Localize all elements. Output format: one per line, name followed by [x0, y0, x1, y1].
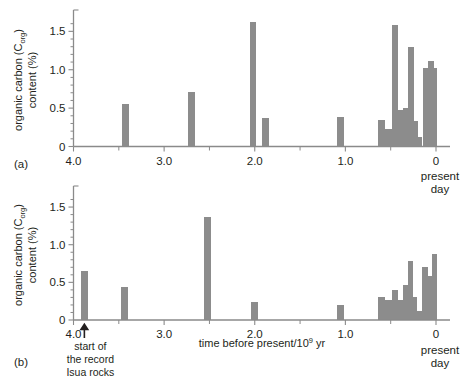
- panel-b-bar: [337, 305, 344, 320]
- isua-annotation-line1: start of: [74, 340, 106, 352]
- panel-a-y-axis-title-line1: organic carbon (Corg): [12, 29, 27, 131]
- panel-a-bar: [397, 110, 402, 146]
- panel-b-bar: [432, 254, 437, 320]
- panel-a: 00.51.01.54.03.02.01.00: [50, 10, 451, 167]
- panel-a-bar: [122, 104, 129, 147]
- panel-a-bar: [337, 117, 344, 146]
- panel-b-bar: [417, 311, 422, 320]
- panel-b-x-tick-label: 1.0: [337, 328, 353, 340]
- panel-a-bar: [408, 47, 413, 147]
- panel-a-bar: [432, 68, 437, 146]
- figure-container: 00.51.01.54.03.02.01.00 00.51.01.54.03.0…: [0, 0, 468, 382]
- panel-a-y-tick-label: 1.5: [50, 25, 66, 37]
- panel-a-bar: [188, 92, 195, 147]
- panel-a-bar: [418, 137, 423, 146]
- panel-b-y-tick-label: 0.5: [50, 276, 66, 288]
- panel-b-bar: [81, 271, 88, 320]
- isua-arrow-icon: [81, 324, 88, 338]
- panel-b-present-day-line2: day: [431, 357, 450, 369]
- chart-svg: 00.51.01.54.03.02.01.00 00.51.01.54.03.0…: [0, 0, 468, 382]
- panel-a-y-axis-title-paren: ): [12, 29, 24, 33]
- panel-b-y-tick-label: 1.0: [50, 239, 66, 251]
- panel-b-x-tick-label: 0: [433, 328, 439, 340]
- panel-a-bar: [262, 118, 269, 146]
- panel-a-y-axis-title2: content (%): [26, 52, 38, 108]
- panel-a-y-tick-label: 0.5: [50, 102, 66, 114]
- panel-b-bar: [385, 300, 392, 320]
- panel-b-bar: [413, 297, 418, 320]
- panel-b-y-axis-title: organic carbon (Corg): [12, 204, 27, 306]
- panel-b-y-axis-title-paren: ): [12, 204, 24, 208]
- panel-a-letter: (a): [14, 158, 28, 170]
- panel-b-bar: [422, 267, 427, 320]
- panel-a-present-day-line1: present: [421, 170, 460, 182]
- panel-a-bar: [423, 68, 428, 146]
- panel-a-y-axis-title-sub: org: [18, 33, 27, 44]
- panel-a-bar: [250, 22, 257, 146]
- panel-b-bar: [121, 287, 128, 320]
- isua-annotation-line3: Isua rocks: [66, 366, 114, 378]
- panel-b-y-axis-title-line2: content (%): [26, 227, 38, 283]
- panel-b-y-axis-title2: content (%): [26, 227, 38, 283]
- panel-a-present-day-line2: day: [431, 183, 450, 195]
- panel-b-bar: [397, 300, 402, 320]
- panel-b-y-tick-label: 1.5: [50, 201, 66, 213]
- panel-b-present-day-line1: present: [421, 344, 460, 356]
- panel-b-bar: [378, 297, 385, 320]
- panel-a-y-axis-title-line2: content (%): [26, 52, 38, 108]
- panel-a-y-tick-label: 1.0: [50, 64, 66, 76]
- panel-a-x-tick-label: 1.0: [337, 155, 353, 167]
- panel-a-x-tick-label: 4.0: [66, 155, 82, 167]
- panel-b-y-tick-label: 0: [59, 314, 65, 326]
- panel-a-y-axis-title: organic carbon (Corg): [12, 29, 27, 131]
- panel-b-y-axis-title-sub: org: [18, 208, 27, 219]
- panel-b-bar: [403, 285, 408, 320]
- panel-a-bar: [385, 129, 392, 147]
- panel-b-bar: [392, 290, 398, 320]
- panel-a-x-tick-label: 0: [433, 155, 439, 167]
- x-axis-title-post: yr: [313, 337, 326, 349]
- panel-b-x-tick-label: 4.0: [66, 328, 82, 340]
- panel-a-bar: [392, 25, 398, 146]
- panel-b-letter: (b): [14, 356, 28, 368]
- panel-b-y-axis-title-line1: organic carbon (Corg): [12, 204, 27, 306]
- panel-a-bar: [378, 120, 385, 147]
- panel-a-x-tick-label: 2.0: [247, 155, 263, 167]
- x-axis-title: time before present/109 yr: [199, 336, 326, 349]
- panel-a-y-tick-label: 0: [59, 141, 65, 153]
- panel-b-x-tick-label: 3.0: [156, 328, 172, 340]
- isua-annotation-line2: the record: [67, 353, 114, 365]
- panel-b: 00.51.01.54.03.02.01.00: [50, 186, 451, 340]
- panel-a-bar: [413, 121, 418, 146]
- panel-b-bar: [408, 261, 413, 320]
- panel-a-bar: [403, 108, 408, 146]
- panel-b-bar: [251, 302, 258, 320]
- panel-b-bar: [204, 217, 211, 320]
- panel-a-x-tick-label: 3.0: [156, 155, 172, 167]
